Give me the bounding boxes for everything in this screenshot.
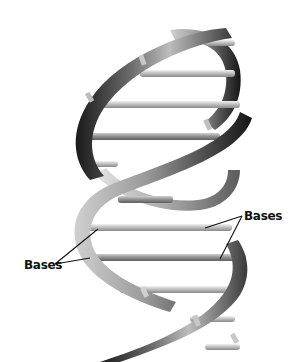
base-pair-rung bbox=[90, 101, 240, 108]
bases-label-left: Bases bbox=[24, 258, 62, 272]
dna-helix-illustration bbox=[0, 0, 301, 362]
base-pair-rung bbox=[80, 133, 220, 140]
bases-label-right: Bases bbox=[244, 209, 282, 223]
base-pair-rung bbox=[118, 196, 173, 203]
base-pair-rung bbox=[205, 344, 240, 350]
base-pair-rung bbox=[140, 70, 235, 77]
base-pair-rung bbox=[82, 224, 232, 231]
front-strand-middle bbox=[75, 112, 252, 312]
